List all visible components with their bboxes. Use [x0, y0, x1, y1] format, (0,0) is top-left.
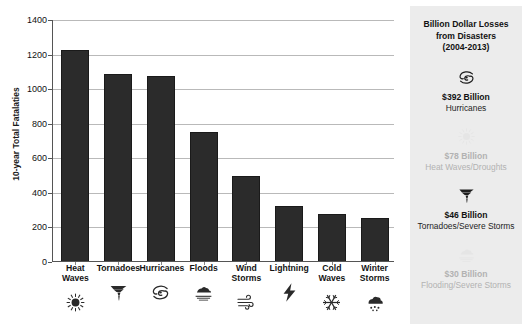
y-tick-label: 400	[32, 188, 47, 198]
x-category: Heat Waves	[54, 264, 97, 315]
x-category-label: Hurricanes	[140, 264, 183, 274]
x-category: Lightning	[268, 264, 311, 306]
loss-entry-icon-wrap	[410, 67, 522, 89]
sun-icon	[65, 292, 86, 313]
x-category-label: Heat Waves	[54, 264, 97, 283]
side-panel: Billion Dollar Losses from Disasters (20…	[410, 6, 522, 324]
wind-icon	[236, 292, 257, 313]
gridline	[52, 20, 394, 21]
hurricane-icon	[150, 282, 171, 303]
y-axis-line	[52, 20, 53, 262]
x-category-label: Wind Storms	[225, 264, 268, 283]
x-category: Tornadoes	[97, 264, 140, 306]
x-axis-line	[52, 261, 394, 262]
bar-chart: 10-year Total Fatalaties 020040060080010…	[0, 0, 404, 330]
loss-amount: $78 Billion	[410, 151, 522, 161]
gridline	[52, 55, 394, 56]
x-category: Hurricanes	[140, 264, 183, 306]
loss-category: Flooding/Severe Storms	[410, 280, 522, 290]
y-tick-label: 1200	[27, 50, 47, 60]
side-panel-entries: $392 BillionHurricanes$78 BillionHeat Wa…	[410, 67, 522, 290]
x-category-icon-wrap	[140, 280, 183, 306]
bar	[361, 218, 389, 262]
bar	[275, 206, 303, 262]
snowflake-icon	[321, 292, 342, 313]
figure-root: 10-year Total Fatalaties 020040060080010…	[0, 0, 526, 330]
loss-amount: $30 Billion	[410, 269, 522, 279]
hurricane-icon	[457, 68, 476, 87]
loss-entry-icon-wrap	[410, 244, 522, 266]
loss-category: Tornadoes/Severe Storms	[410, 221, 522, 231]
x-category-label: Floods	[182, 264, 225, 274]
x-category-icon-wrap	[54, 289, 97, 315]
y-tick-mark	[48, 262, 52, 263]
loss-entry-icon-wrap	[410, 185, 522, 207]
x-category: Cold Waves	[311, 264, 354, 315]
y-tick-label: 0	[42, 257, 47, 267]
x-category-icon-wrap	[353, 289, 396, 315]
x-category-label: Lightning	[268, 264, 311, 274]
x-category-icon-wrap	[268, 280, 311, 306]
y-axis-title: 10-year Total Fatalaties	[11, 69, 21, 199]
loss-amount: $392 Billion	[410, 92, 522, 102]
x-category-icon-wrap	[311, 289, 354, 315]
x-category-label: Tornadoes	[97, 264, 140, 274]
x-category: Floods	[182, 264, 225, 306]
x-category-icon-wrap	[225, 289, 268, 315]
x-category: Winter Storms	[353, 264, 396, 315]
x-category-icon-wrap	[182, 280, 225, 306]
loss-category: Hurricanes	[410, 103, 522, 113]
snow-cloud-icon	[364, 292, 385, 313]
loss-category: Heat Waves/Droughts	[410, 162, 522, 172]
loss-entry: $30 BillionFlooding/Severe Storms	[410, 244, 522, 290]
y-tick-label: 200	[32, 222, 47, 232]
flood-icon	[457, 245, 476, 264]
y-tick-label: 1000	[27, 84, 47, 94]
y-tick-label: 1400	[27, 15, 47, 25]
x-axis-categories: Heat WavesTornadoesHurricanesFloodsWind …	[52, 264, 394, 330]
loss-entry: $78 BillionHeat Waves/Droughts	[410, 126, 522, 172]
side-panel-title: Billion Dollar Losses from Disasters (20…	[410, 19, 522, 54]
sun-icon	[457, 127, 476, 146]
bar	[147, 76, 175, 262]
bar	[104, 74, 132, 262]
tornado-icon	[108, 282, 129, 303]
loss-entry-icon-wrap	[410, 126, 522, 148]
bar	[232, 176, 260, 262]
y-tick-label: 800	[32, 119, 47, 129]
lightning-icon	[279, 282, 300, 303]
loss-amount: $46 Billion	[410, 210, 522, 220]
bar	[61, 50, 89, 262]
tornado-icon	[457, 186, 476, 205]
y-tick-label: 600	[32, 153, 47, 163]
x-category-icon-wrap	[97, 280, 140, 306]
loss-entry: $392 BillionHurricanes	[410, 67, 522, 113]
x-category-label: Cold Waves	[311, 264, 354, 283]
loss-entry: $46 BillionTornadoes/Severe Storms	[410, 185, 522, 231]
x-category-label: Winter Storms	[353, 264, 396, 283]
bar	[190, 132, 218, 262]
flood-icon	[193, 282, 214, 303]
x-category: Wind Storms	[225, 264, 268, 315]
plot-area: 0200400600800100012001400	[52, 20, 394, 262]
bar	[318, 214, 346, 262]
